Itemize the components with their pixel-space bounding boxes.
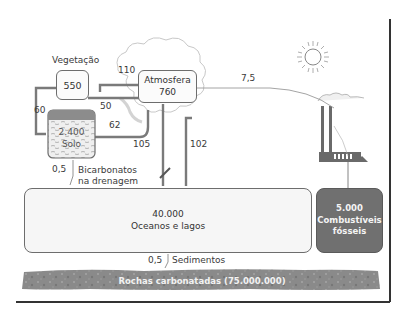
flux-atm-to-veg: 110: [118, 66, 135, 75]
rocks-label: Rochas carbonatadas (75.000.000): [24, 272, 380, 290]
sediment-line: [165, 254, 168, 268]
soil-value: 2.400: [59, 127, 85, 138]
atmosphere-title: Atmosfera: [144, 75, 190, 86]
flux-break-marker: [160, 168, 170, 178]
flux-veg-to-atm: 50: [100, 102, 111, 111]
flux-fossil-to-atm: 7,5: [241, 74, 255, 83]
flux-ocean-to-atm: 105: [133, 140, 150, 149]
flux-veg-to-soil: 60: [34, 106, 45, 115]
oceans-box: 40.000 Oceanos e lagos: [24, 188, 312, 253]
atmosphere-value: 760: [159, 87, 176, 98]
atmosphere-box: Atmosfera 760: [138, 70, 197, 103]
soil-title: Solo: [62, 139, 81, 150]
fossil-fuels-title-1: Combustíveis: [317, 215, 381, 226]
fossil-fuels-value: 5.000: [336, 203, 363, 214]
flux-soil-to-atm: 62: [109, 121, 120, 130]
vegetation-box: 550: [56, 70, 89, 100]
oceans-value: 40.000: [152, 209, 184, 221]
factory-icon: [318, 93, 368, 162]
fossil-fuels-box: 5.000 Combustíveis fósseis: [316, 188, 383, 253]
bicarbonate-line: [70, 160, 73, 185]
flux-ocean-to-rock-value: 0,5: [148, 256, 162, 265]
fossil-emission-line: [196, 88, 334, 108]
flux-atm-to-ocean: 102: [190, 140, 207, 149]
soil-box: 2.400 Solo: [48, 119, 95, 158]
vegetation-value: 550: [63, 80, 81, 91]
fossil-fuels-title-2: fósseis: [333, 226, 366, 237]
sun-icon: [297, 41, 329, 73]
flux-ocean-to-rock-label: Sedimentos: [172, 256, 225, 265]
vegetation-title: Vegetação: [52, 56, 99, 65]
flux-soil-to-ocean-label: Bicarbonatos na drenagem: [78, 165, 138, 187]
oceans-title: Oceanos e lagos: [131, 221, 205, 233]
flux-soil-to-ocean-value: 0,5: [52, 165, 66, 174]
